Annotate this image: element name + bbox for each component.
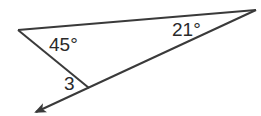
angle-label-45: 45° — [49, 34, 78, 55]
triangle-diagram: 45° 21° 3 — [0, 0, 261, 116]
angle-label-21: 21° — [172, 19, 201, 40]
angle-label-3: 3 — [64, 73, 75, 94]
triangle-figure: 45° 21° 3 — [0, 0, 261, 116]
